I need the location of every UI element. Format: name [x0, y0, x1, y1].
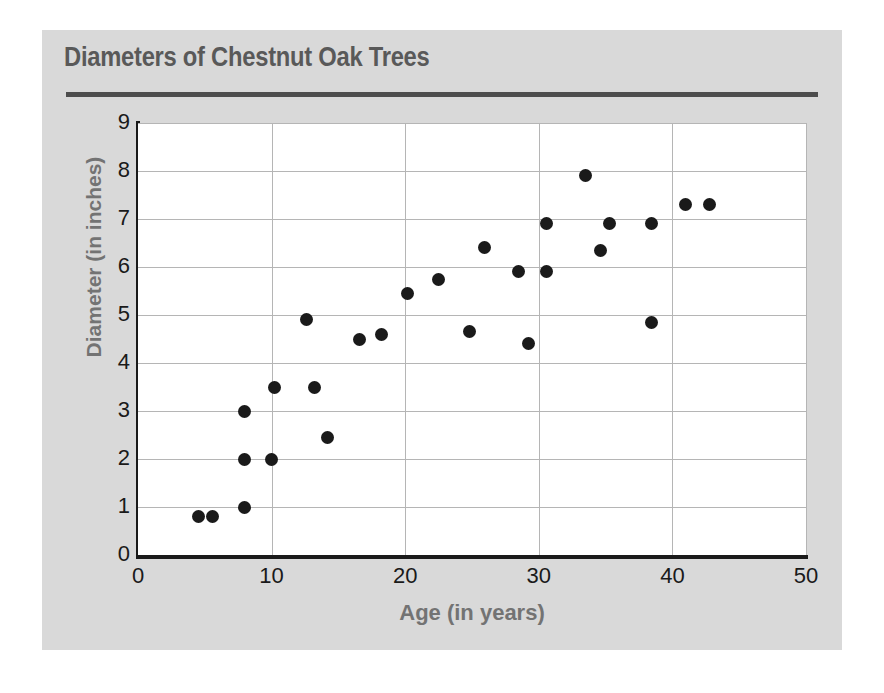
scatter-point: [375, 328, 388, 341]
scatter-point: [522, 337, 535, 350]
x-axis-line: [136, 555, 808, 559]
gridline-horizontal: [138, 363, 806, 364]
plot-area: [138, 123, 806, 555]
gridline-vertical: [272, 123, 273, 555]
x-tick-label: 10: [242, 563, 302, 589]
scatter-point: [478, 241, 491, 254]
gridline-vertical: [405, 123, 406, 555]
scatter-point: [645, 316, 658, 329]
x-tick-label: 0: [108, 563, 168, 589]
gridline-horizontal: [138, 267, 806, 268]
gridline-horizontal: [138, 171, 806, 172]
scatter-point: [540, 265, 553, 278]
x-tick-label: 30: [509, 563, 569, 589]
scatter-point: [238, 405, 251, 418]
x-axis-title: Age (in years): [138, 600, 806, 626]
y-tick-label: 1: [96, 493, 130, 519]
scatter-point: [463, 325, 476, 338]
scatter-point: [265, 453, 278, 466]
x-axis-tick-labels: 01020304050: [138, 563, 806, 593]
gridline-vertical: [539, 123, 540, 555]
x-tick-label: 20: [375, 563, 435, 589]
scatter-point: [512, 265, 525, 278]
scatter-point: [594, 244, 607, 257]
scatter-point: [268, 381, 281, 394]
y-tick-label: 2: [96, 445, 130, 471]
gridline-horizontal: [138, 219, 806, 220]
scatter-point: [401, 287, 414, 300]
gridline-vertical: [806, 123, 807, 555]
scatter-point: [579, 169, 592, 182]
gridline-horizontal: [138, 315, 806, 316]
title-divider: [66, 92, 818, 97]
chart-title: Diameters of Chestnut Oak Trees: [64, 42, 430, 73]
y-tick-label: 3: [96, 397, 130, 423]
scatter-point: [308, 381, 321, 394]
x-tick-label: 40: [642, 563, 702, 589]
scatter-point: [353, 333, 366, 346]
scatter-point: [206, 510, 219, 523]
scatter-point: [238, 501, 251, 514]
y-axis-title: Diameter (in inches): [82, 127, 106, 387]
scatter-point: [192, 510, 205, 523]
scatter-point: [540, 217, 553, 230]
scatter-point: [703, 198, 716, 211]
scatter-point: [679, 198, 692, 211]
gridline-horizontal: [138, 123, 806, 124]
scatter-point: [603, 217, 616, 230]
chart-panel: Diameters of Chestnut Oak Trees 01234567…: [42, 30, 842, 650]
scatter-point: [432, 273, 445, 286]
gridline-vertical: [672, 123, 673, 555]
scatter-point: [321, 431, 334, 444]
x-tick-label: 50: [776, 563, 836, 589]
scatter-point: [238, 453, 251, 466]
scatter-point: [300, 313, 313, 326]
scatter-point: [645, 217, 658, 230]
